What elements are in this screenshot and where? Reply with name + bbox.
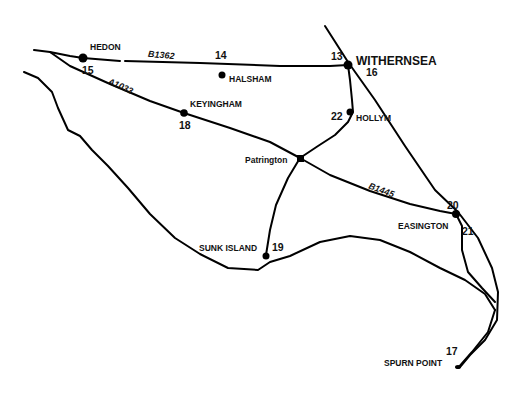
number-withernsea-alt: 16 — [366, 67, 378, 78]
number-easington: 20 — [447, 200, 459, 211]
number-sunk-island: 19 — [272, 242, 284, 253]
label-keyingham: KEYINGHAM — [190, 100, 242, 109]
withernsea-marker[interactable] — [344, 61, 353, 70]
number-keyingham: 18 — [179, 120, 191, 131]
keyingham-marker[interactable] — [180, 109, 188, 117]
road-withernsea-hollym — [300, 65, 353, 158]
number-easington-alt: 21 — [462, 226, 474, 237]
label-halsham: HALSHAM — [229, 75, 272, 84]
number-hollym: 22 — [331, 111, 343, 122]
hedon-marker[interactable] — [79, 54, 88, 63]
number-hedon: 15 — [82, 65, 94, 76]
label-hollym: HOLLYM — [356, 114, 391, 123]
road-b1362 — [83, 58, 120, 61]
patrington-marker[interactable] — [297, 155, 304, 162]
number-withernsea: 13 — [331, 51, 343, 62]
east-coastline — [325, 26, 498, 367]
number-spurn-point: 17 — [446, 346, 458, 357]
spurn-inner-shore — [458, 310, 495, 368]
easington-marker[interactable] — [452, 210, 460, 218]
road-b1362-cont — [125, 61, 348, 66]
label-spurn-point: SPURN POINT — [384, 359, 442, 368]
halsham-marker[interactable] — [219, 72, 226, 79]
spurn-point-marker[interactable] — [455, 365, 461, 369]
label-hedon: HEDON — [90, 43, 121, 52]
humber-shoreline — [24, 72, 495, 310]
number-halsham: 14 — [215, 50, 227, 61]
hollym-marker[interactable] — [347, 109, 354, 116]
label-sunk-island: SUNK ISLAND — [199, 244, 257, 253]
label-patrington: Patrington — [245, 156, 288, 165]
label-easington: EASINGTON — [398, 222, 448, 231]
map-canvas — [0, 0, 522, 393]
sunk-island-marker[interactable] — [263, 253, 270, 260]
